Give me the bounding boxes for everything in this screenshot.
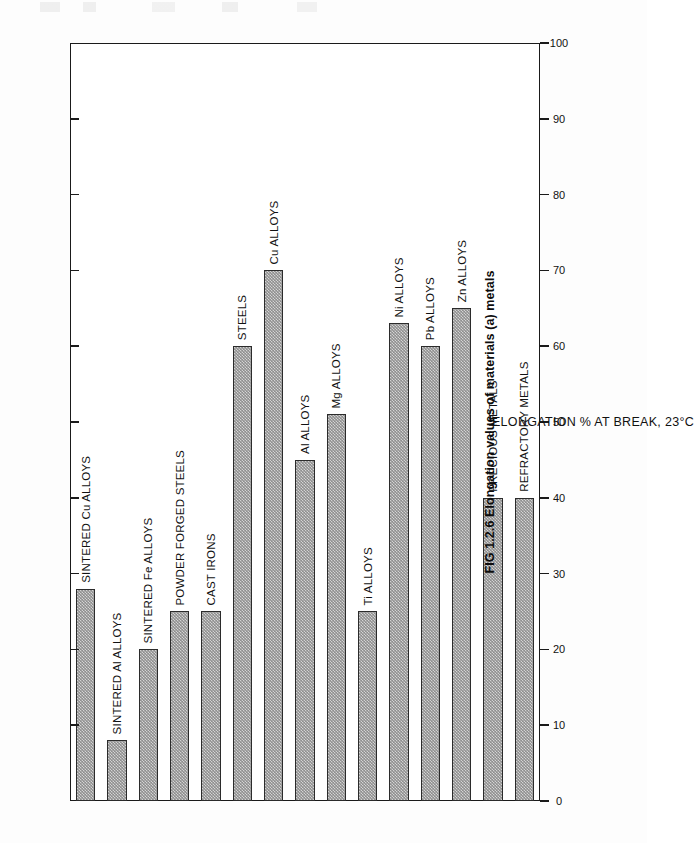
axis-tick bbox=[540, 118, 549, 120]
axis-tick-label: 30 bbox=[552, 567, 564, 579]
bar bbox=[138, 649, 157, 801]
bar-label: SINTERED Cu ALLOYS bbox=[79, 455, 91, 582]
bar bbox=[75, 588, 94, 800]
bar bbox=[232, 346, 251, 801]
bar bbox=[326, 414, 345, 801]
axis-tick-inner bbox=[70, 269, 79, 271]
bar-row: SINTERED Al ALLOYS bbox=[107, 43, 126, 801]
axis-tick-inner bbox=[70, 193, 79, 195]
axis-tick bbox=[540, 497, 549, 499]
bar bbox=[420, 346, 439, 801]
axis-tick-inner bbox=[70, 648, 79, 650]
bar-label: Cu ALLOYS bbox=[267, 200, 279, 264]
bar-row: CAST IRONS bbox=[201, 43, 220, 801]
bar-row: Pb ALLOYS bbox=[420, 43, 439, 801]
bar-label: Zn ALLOYS bbox=[455, 239, 467, 302]
bar bbox=[357, 611, 376, 801]
axis-tick-label: 20 bbox=[552, 643, 564, 655]
bar bbox=[107, 740, 126, 801]
bar-row: SINTERED Fe ALLOYS bbox=[138, 43, 157, 801]
bar-label: SINTERED Al ALLOYS bbox=[110, 612, 122, 734]
axis-tick-inner bbox=[70, 724, 79, 726]
axis-tick-label: 70 bbox=[552, 264, 564, 276]
bar bbox=[389, 323, 408, 801]
bar-row: Ti ALLOYS bbox=[357, 43, 376, 801]
axis-tick-label: 10 bbox=[552, 719, 564, 731]
bar bbox=[514, 497, 533, 800]
bar-label: CAST IRONS bbox=[204, 533, 216, 605]
bar-row: Zn ALLOYS bbox=[451, 43, 470, 801]
bar-label: Ni ALLOYS bbox=[392, 257, 404, 317]
axis-tick bbox=[540, 193, 549, 195]
axis-tick-label: 80 bbox=[552, 188, 564, 200]
bar-label: SINTERED Fe ALLOYS bbox=[142, 517, 154, 643]
axis-tick-inner bbox=[70, 497, 79, 499]
axis-tick-label: 100 bbox=[549, 37, 567, 49]
bar-row: POWDER FORGED STEELS bbox=[169, 43, 188, 801]
bar-label: POWDER FORGED STEELS bbox=[173, 450, 185, 605]
bar-row: STEELS bbox=[232, 43, 251, 801]
axis-tick bbox=[540, 42, 549, 44]
bar-row: Mg ALLOYS bbox=[326, 43, 345, 801]
bar-label: STEELS bbox=[236, 294, 248, 339]
axis-tick bbox=[540, 345, 549, 347]
axis-tick-inner bbox=[70, 421, 79, 423]
bar-chart: SINTERED Cu ALLOYSSINTERED Al ALLOYSSINT… bbox=[70, 43, 578, 801]
axis-tick-inner bbox=[70, 345, 79, 347]
bar bbox=[169, 611, 188, 801]
bar-label: Al ALLOYS bbox=[298, 394, 310, 453]
axis-tick-label: 40 bbox=[552, 491, 564, 503]
bar bbox=[295, 459, 314, 800]
axis-tick-inner bbox=[70, 118, 79, 120]
axis-tick bbox=[540, 269, 549, 271]
bar-label: Ti ALLOYS bbox=[361, 547, 373, 605]
axis-tick-label: 60 bbox=[552, 340, 564, 352]
value-axis-title: ELONGATION % AT BREAK, 23°C bbox=[491, 415, 693, 429]
bar bbox=[201, 611, 220, 801]
bar-row: Cu ALLOYS bbox=[263, 43, 282, 801]
bar bbox=[451, 308, 470, 801]
scan-artifact bbox=[40, 2, 370, 12]
axis-tick-inner bbox=[70, 572, 79, 574]
axis-tick bbox=[540, 648, 549, 650]
bars-group: SINTERED Cu ALLOYSSINTERED Al ALLOYSSINT… bbox=[70, 43, 540, 801]
bar-row: Ni ALLOYS bbox=[389, 43, 408, 801]
plot-area: SINTERED Cu ALLOYSSINTERED Al ALLOYSSINT… bbox=[70, 43, 578, 801]
bar-row: Al ALLOYS bbox=[295, 43, 314, 801]
axis-tick bbox=[540, 724, 549, 726]
figure-caption: FIG 1.2.6 Elongation values of materials… bbox=[482, 270, 496, 573]
axis-tick bbox=[540, 800, 549, 802]
bar-label: Pb ALLOYS bbox=[424, 277, 436, 340]
bar bbox=[263, 270, 282, 801]
axis-tick-label: 90 bbox=[552, 112, 564, 124]
axis-tick bbox=[540, 572, 549, 574]
bar-label: Mg ALLOYS bbox=[330, 343, 342, 408]
axis-tick-label: 0 bbox=[555, 795, 561, 807]
